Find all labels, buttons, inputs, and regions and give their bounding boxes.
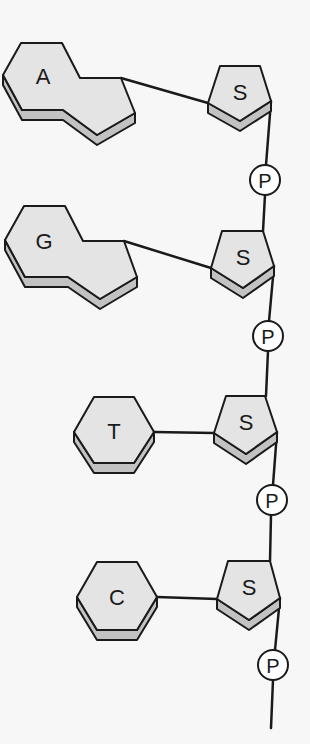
sugar-2: S (211, 231, 274, 298)
sugar-label: S (236, 245, 251, 270)
backbone-bond (266, 351, 268, 396)
base-label: A (36, 64, 51, 89)
backbone-bond (270, 515, 271, 561)
phosphate-label: P (258, 170, 271, 192)
glycosidic-bonds (121, 78, 217, 599)
dna-strand-diagram: A S P G S P T (0, 0, 310, 744)
backbone-bond (263, 195, 265, 231)
nucleotide-4: C S P (77, 561, 288, 680)
base-label: G (35, 229, 52, 254)
base-adenine: A (3, 43, 135, 145)
sugar-3: S (214, 396, 277, 464)
nucleotide-1: A S P (3, 43, 280, 195)
sugar-label: S (233, 80, 248, 105)
base-thymine: T (74, 397, 154, 473)
phosphate-2: P (253, 321, 283, 351)
sugar-label: S (239, 410, 254, 435)
base-sugar-bond (154, 432, 214, 433)
nucleotide-3: T S P (74, 396, 287, 515)
phosphate-3: P (257, 485, 287, 515)
phosphate-4: P (258, 650, 288, 680)
base-sugar-bond (124, 241, 211, 268)
nucleotide-2: G S P (5, 206, 283, 351)
phosphate-label: P (265, 490, 278, 512)
base-label: T (107, 419, 120, 444)
sugar-4: S (217, 561, 280, 630)
phosphate-1: P (250, 165, 280, 195)
phosphate-label: P (266, 655, 279, 677)
base-guanine: G (5, 206, 137, 309)
sugar-label: S (242, 575, 257, 600)
base-sugar-bond (121, 78, 208, 103)
base-label: C (109, 585, 125, 610)
phosphate-label: P (261, 326, 274, 348)
base-cytosine: C (77, 562, 157, 640)
base-sugar-bond (157, 597, 217, 599)
sugar-1: S (208, 66, 271, 131)
backbone-bond (271, 680, 273, 728)
